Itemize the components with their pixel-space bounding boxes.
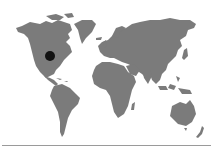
tasmania <box>184 128 187 131</box>
japan <box>182 48 188 60</box>
madagascar <box>131 102 135 110</box>
location-marker[interactable] <box>45 51 55 61</box>
greenland <box>74 20 96 44</box>
south-america <box>50 84 80 137</box>
central-america <box>44 76 58 86</box>
new-zealand <box>196 126 204 138</box>
iceland <box>96 37 102 40</box>
caribbean <box>56 78 68 82</box>
world-map <box>0 0 213 148</box>
southeast-asia-islands <box>158 76 192 94</box>
north-america <box>16 20 72 78</box>
land-masses <box>16 13 204 138</box>
bottom-rule <box>2 145 211 146</box>
arctic-islands <box>46 13 74 20</box>
australia <box>170 100 196 126</box>
india <box>142 70 152 84</box>
